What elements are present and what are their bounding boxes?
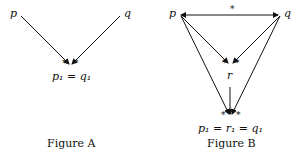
- node-bottom-b: p₁ = r₁ = q₁: [198, 123, 263, 134]
- figure-b-edges: [181, 15, 280, 114]
- mark-a-right: *: [74, 59, 79, 68]
- mark-b-bottom-left: *: [221, 111, 226, 120]
- node-q-b: q: [284, 8, 291, 19]
- edge-label-top: *: [230, 5, 235, 14]
- edge-q-to-meet: [72, 16, 120, 64]
- mark-b-r-left: *: [222, 59, 227, 68]
- figure-a-caption: Figure A: [47, 138, 96, 149]
- edge-p-to-meet: [21, 16, 69, 64]
- mark-b-bottom-right: *: [236, 111, 241, 120]
- edge-p-to-r: [181, 16, 228, 63]
- mark-b-r-right: *: [235, 59, 240, 68]
- node-p-b: p: [169, 8, 176, 19]
- node-q-a: q: [124, 8, 131, 19]
- node-p-a: p: [10, 8, 17, 19]
- mark-a-left: *: [62, 59, 67, 68]
- figure-a-edges: [21, 16, 120, 64]
- edge-q-to-r: [233, 16, 280, 63]
- node-meet-a: p₁ = q₁: [52, 71, 91, 82]
- node-r-b: r: [227, 70, 232, 81]
- figure-b-caption: Figure B: [207, 138, 256, 149]
